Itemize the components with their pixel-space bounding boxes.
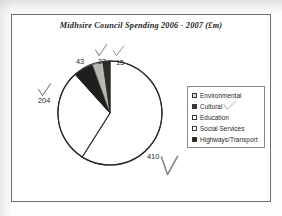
legend-label-social-services: Social Services — [200, 125, 244, 132]
pie-value-label-204: 204 — [38, 96, 50, 105]
pie-chart — [40, 45, 190, 190]
legend-label-cultural: Cultural — [200, 103, 222, 110]
legend-swatch-education — [192, 115, 197, 120]
legend-label-education: Education — [200, 114, 229, 121]
legend-swatch-social-services — [192, 126, 197, 131]
chart-title: Midhsire Council Spending 2006 - 2007 (£… — [11, 21, 271, 30]
legend-item-highways-transport[interactable]: Highways/Transport — [192, 134, 264, 145]
legend-label-environmental: Environmental — [200, 92, 242, 99]
chart-legend: Environmental Cultural Education Social … — [187, 86, 265, 148]
pie-value-label-410: 410 — [147, 152, 159, 161]
legend-item-education[interactable]: Education — [192, 112, 264, 123]
legend-item-environmental[interactable]: Environmental — [192, 90, 264, 101]
scan-edge-shadow-top — [0, 0, 282, 13]
legend-swatch-environmental — [192, 93, 197, 98]
legend-label-highways-transport: Highways/Transport — [200, 136, 258, 143]
pie-slices — [58, 61, 162, 165]
pie-value-label-15: 15 — [116, 58, 124, 67]
legend-swatch-cultural — [192, 104, 197, 109]
legend-item-social-services[interactable]: Social Services — [192, 123, 264, 134]
legend-swatch-highways-transport — [192, 137, 197, 142]
legend-item-cultural[interactable]: Cultural — [192, 101, 264, 112]
pie-value-label-43: 43 — [76, 57, 84, 66]
pie-value-label-23: 23 — [98, 57, 106, 66]
